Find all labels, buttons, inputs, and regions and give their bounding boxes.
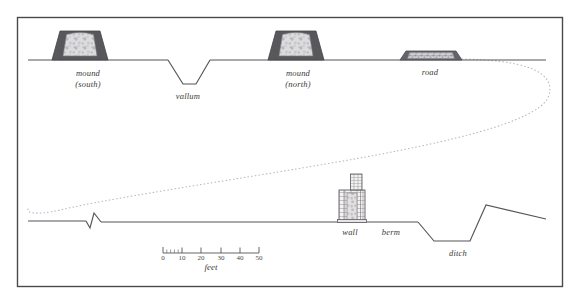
scale-tick-40: 40 bbox=[237, 254, 244, 262]
vallum-profile bbox=[168, 60, 210, 84]
scale-tick-30: 30 bbox=[218, 254, 225, 262]
label-ditch: ditch bbox=[449, 249, 467, 259]
label-vallum-line1: vallum bbox=[176, 92, 200, 102]
scale-major-ticks bbox=[163, 247, 259, 253]
lower-profile bbox=[28, 174, 546, 241]
scale-subdivisions bbox=[167, 250, 178, 254]
scale-tick-50: 50 bbox=[256, 254, 263, 262]
label-wall: wall bbox=[342, 228, 357, 238]
label-road-line1: road bbox=[422, 68, 439, 78]
lower-notch bbox=[86, 213, 101, 228]
label-berm-line1: berm bbox=[382, 228, 400, 238]
scale-tick-20: 20 bbox=[198, 254, 205, 262]
label-wall-line1: wall bbox=[342, 228, 357, 238]
scale-tick-0: 0 bbox=[161, 254, 165, 262]
label-road: road bbox=[422, 68, 439, 78]
label-berm: berm bbox=[382, 228, 400, 238]
ditch-profile bbox=[418, 205, 546, 241]
cross-section-figure: mound (south) vallum mound (north) road … bbox=[0, 0, 578, 300]
label-ditch-line1: ditch bbox=[449, 249, 467, 259]
road-shape bbox=[400, 51, 462, 60]
label-mound-north-line1: mound bbox=[285, 68, 310, 79]
label-mound-north: mound (north) bbox=[285, 68, 310, 89]
label-mound-south-line2: (south) bbox=[75, 79, 100, 90]
label-mound-south: mound (south) bbox=[75, 68, 100, 89]
wall-shape bbox=[338, 174, 367, 223]
label-vallum: vallum bbox=[176, 92, 200, 102]
scale-tick-10: 10 bbox=[179, 254, 186, 262]
label-mound-north-line2: (north) bbox=[285, 79, 310, 90]
cross-section-svg bbox=[0, 0, 578, 300]
scale-caption: feet bbox=[205, 262, 218, 272]
scale-bar bbox=[163, 247, 259, 253]
mound-north-shape bbox=[268, 31, 324, 60]
mound-south-shape bbox=[52, 31, 108, 60]
label-mound-south-line1: mound bbox=[75, 68, 100, 79]
